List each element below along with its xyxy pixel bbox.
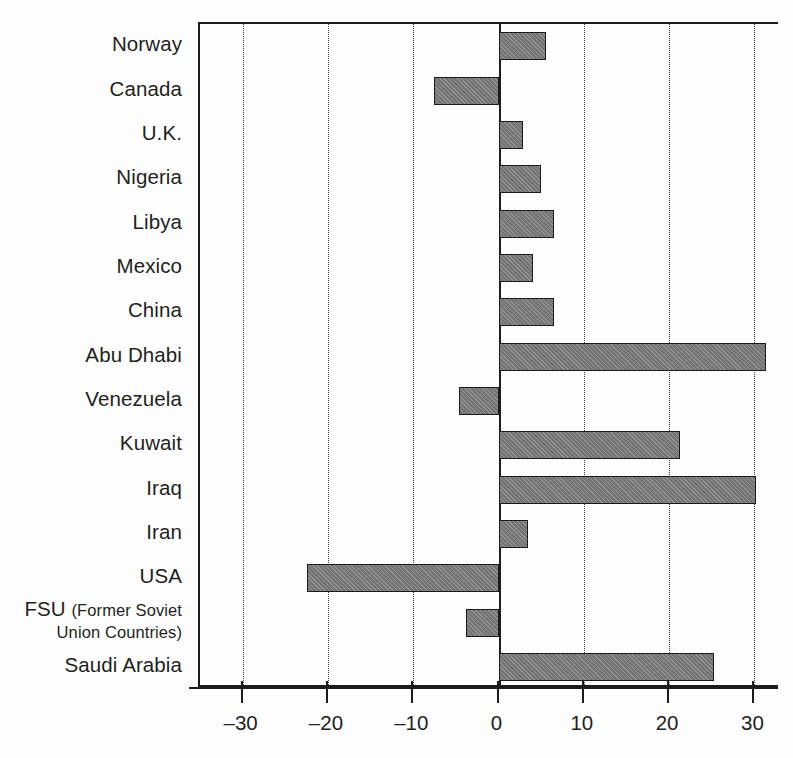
- category-label: Iraq: [146, 476, 182, 498]
- bar: [499, 343, 767, 371]
- plot-area: [198, 22, 778, 687]
- bar: [459, 387, 498, 415]
- axis-tick: [411, 681, 413, 703]
- bar: [499, 210, 554, 238]
- axis-baseline: [189, 687, 778, 689]
- bar: [434, 77, 499, 105]
- category-label: Venezuela: [85, 388, 182, 410]
- category-label: USA: [140, 565, 182, 587]
- category-label: Nigeria: [116, 166, 182, 188]
- category-axis: NorwayCanadaU.K.NigeriaLibyaMexicoChinaA…: [0, 0, 190, 758]
- axis-tick: [241, 681, 243, 703]
- category-label: FSU (Former Soviet Union Countries): [0, 598, 182, 644]
- category-label: Saudi Arabia: [65, 654, 182, 676]
- bar-chart-figure: NorwayCanadaU.K.NigeriaLibyaMexicoChinaA…: [0, 0, 793, 758]
- category-label: Canada: [110, 77, 182, 99]
- bar: [499, 165, 542, 193]
- axis-tick-label: –20: [309, 711, 343, 735]
- bar: [499, 121, 524, 149]
- bar: [466, 609, 498, 637]
- axis-tick-label: 10: [570, 711, 593, 735]
- bar: [499, 298, 554, 326]
- category-label: China: [128, 299, 182, 321]
- axis-tick-label: –10: [394, 711, 428, 735]
- bar: [499, 254, 533, 282]
- axis-tick-label: 30: [741, 711, 764, 735]
- bar: [499, 476, 757, 504]
- category-label: Libya: [132, 210, 182, 232]
- bar: [307, 564, 498, 592]
- value-axis: –30–20–100102030: [198, 687, 778, 758]
- gridline-neg30: [243, 24, 244, 685]
- axis-tick: [326, 681, 328, 703]
- bar: [499, 520, 529, 548]
- category-label: Abu Dhabi: [85, 343, 182, 365]
- axis-tick-label: 20: [656, 711, 679, 735]
- axis-tick-label: 0: [491, 711, 502, 735]
- axis-tick: [582, 681, 584, 703]
- category-label: U.K.: [142, 122, 182, 144]
- axis-tick: [667, 681, 669, 703]
- category-label: Kuwait: [120, 432, 182, 454]
- axis-tick-label: –30: [224, 711, 258, 735]
- axis-tick: [497, 681, 499, 703]
- category-label-sub: (Former Soviet Union Countries): [57, 601, 182, 642]
- axis-tick: [752, 681, 754, 703]
- category-label: Mexico: [116, 255, 182, 277]
- category-label: Iran: [146, 521, 182, 543]
- bar: [499, 431, 681, 459]
- category-label-main: FSU: [24, 597, 71, 620]
- bar: [499, 653, 715, 681]
- category-label: Norway: [112, 33, 182, 55]
- bar: [499, 32, 547, 60]
